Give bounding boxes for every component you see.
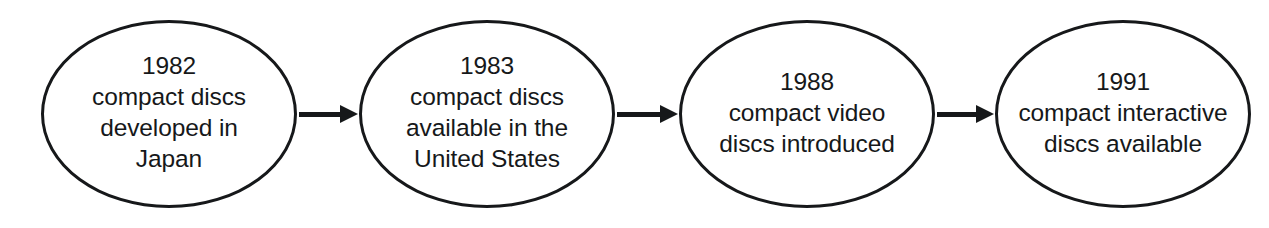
arrow-head: [976, 105, 994, 123]
node-line: compact discs: [362, 81, 612, 112]
flowchart-node-1988[interactable]: 1988 compact video discs introduced: [679, 20, 935, 208]
node-text-block: 1988 compact video discs introduced: [682, 66, 932, 163]
flowchart-node-1991[interactable]: 1991 compact interactive discs available: [995, 20, 1251, 208]
flowchart-node-1983[interactable]: 1983 compact discs available in the Unit…: [359, 20, 615, 208]
node-year: 1983: [362, 50, 612, 81]
node-line: discs available: [998, 128, 1248, 159]
arrow-shaft: [299, 112, 341, 117]
node-line: available in the: [362, 112, 612, 143]
node-text-block: 1991 compact interactive discs available: [998, 66, 1248, 163]
node-text-block: 1983 compact discs available in the Unit…: [362, 50, 612, 178]
node-line: developed in: [44, 112, 294, 143]
node-line: compact discs: [44, 81, 294, 112]
arrow-right-icon: [616, 104, 678, 124]
flowchart-node-1982[interactable]: 1982 compact discs developed in Japan: [41, 20, 297, 208]
node-line: United States: [362, 143, 612, 174]
node-line: Japan: [44, 143, 294, 174]
node-line: compact video: [682, 97, 932, 128]
node-year: 1991: [998, 66, 1248, 97]
arrow-right-icon: [298, 104, 358, 124]
arrow-shaft: [617, 112, 661, 117]
node-year: 1988: [682, 66, 932, 97]
arrow-head: [340, 105, 358, 123]
arrow-head: [660, 105, 678, 123]
arrow-shaft: [937, 112, 977, 117]
node-text-block: 1982 compact discs developed in Japan: [44, 50, 294, 178]
flowchart-canvas: 1982 compact discs developed in Japan 19…: [0, 0, 1269, 228]
arrow-right-icon: [936, 104, 994, 124]
node-line: compact interactive: [998, 97, 1248, 128]
flowchart-sequence: 1982 compact discs developed in Japan 19…: [0, 0, 1269, 228]
node-line: discs introduced: [682, 128, 932, 159]
node-year: 1982: [44, 50, 294, 81]
